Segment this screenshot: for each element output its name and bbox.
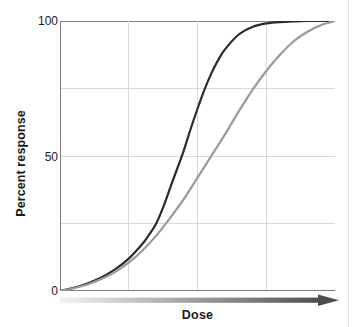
page-margin-rule bbox=[348, 0, 349, 327]
grid-lines bbox=[60, 21, 335, 291]
y-tick-label-0: 0 bbox=[18, 285, 58, 297]
y-tick-label-group: 100 50 0 bbox=[18, 0, 58, 327]
dose-response-figure: Percent response 100 50 0 Dose bbox=[0, 0, 356, 327]
y-tick-label-50: 50 bbox=[18, 151, 58, 163]
x-axis-label: Dose bbox=[60, 308, 335, 322]
plot-svg bbox=[60, 21, 335, 291]
y-tick-label-100: 100 bbox=[18, 15, 58, 27]
dose-gradient-arrow bbox=[60, 294, 339, 308]
plot-area bbox=[60, 21, 335, 291]
